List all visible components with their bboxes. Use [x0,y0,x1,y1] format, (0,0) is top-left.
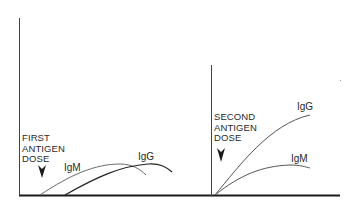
primary-igm-label: IgM [64,162,81,173]
secondary-igm-label: IgM [291,153,308,164]
second-dose-label: SECOND ANTIGEN DOSE [214,112,257,144]
secondary-igm-curve [215,165,310,195]
speck [340,80,341,81]
first-dose-arrow-icon [38,165,46,178]
primary-igg-curve [65,164,172,195]
second-dose-line-3: DOSE [214,133,257,144]
first-dose-line-3: DOSE [22,154,65,165]
primary-igm-curve [40,164,146,195]
first-dose-label: FIRST ANTIGEN DOSE [22,133,65,165]
second-dose-arrow-icon [217,148,225,162]
primary-igg-label: IgG [138,151,154,162]
first-dose-line-1: FIRST [22,133,65,144]
second-dose-line-1: SECOND [214,112,257,123]
secondary-igg-label: IgG [297,101,313,112]
